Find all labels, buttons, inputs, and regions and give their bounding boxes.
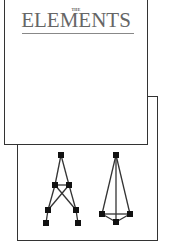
graph-a-nodes <box>43 152 81 226</box>
title-underline <box>22 33 134 34</box>
front-card: THE ELEMENTS <box>4 0 148 145</box>
cover-title: ELEMENTS <box>5 10 147 30</box>
graph-triangle-edges <box>102 155 130 222</box>
